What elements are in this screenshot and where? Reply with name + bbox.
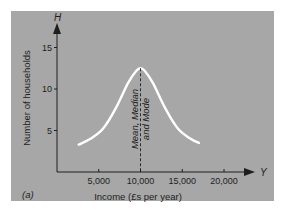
x-tick-label: 10,000 xyxy=(127,176,155,186)
x-tick-label: 20,000 xyxy=(210,176,238,186)
chart-figure: 51015 5,00010,00015,00020,000 H Y Number… xyxy=(0,0,301,219)
panel-label: (a) xyxy=(22,189,34,200)
annotation-line-2: and Mode xyxy=(140,98,151,140)
y-axis-title: Number of households xyxy=(21,50,32,146)
x-axis-title: Income (£s per year) xyxy=(94,191,182,202)
y-tick-label: 5 xyxy=(47,126,52,136)
y-tick-label: 10 xyxy=(42,84,52,94)
x-tick-label: 5,000 xyxy=(87,176,110,186)
annotation-line-1: Mean, Median xyxy=(129,89,140,149)
x-tick-label: 15,000 xyxy=(168,176,196,186)
y-tick-label: 15 xyxy=(42,43,52,53)
y-axis-letter: H xyxy=(54,12,62,23)
